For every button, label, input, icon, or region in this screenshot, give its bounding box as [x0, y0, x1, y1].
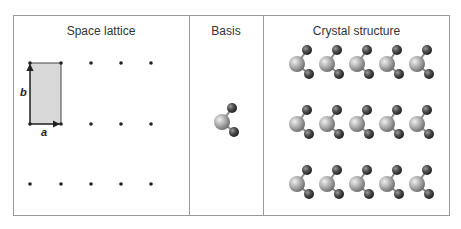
unit-cell: [30, 63, 61, 124]
vector-a-label: a: [41, 126, 47, 138]
vector-b-label: b: [20, 86, 27, 98]
crystal-molecules: [289, 45, 434, 199]
basis-molecule: [214, 103, 239, 137]
diagram-graphics: [0, 0, 461, 229]
